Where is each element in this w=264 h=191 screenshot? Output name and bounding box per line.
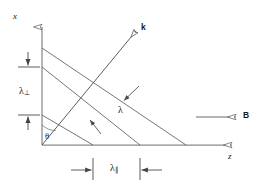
theta-angle-arc [42,125,56,131]
wavefront-line-2 [42,67,140,145]
lambda-pointer-arrow-upper [124,86,139,101]
b-vector-label: B [243,111,249,120]
k-vector-label: k [141,23,146,32]
x-axis-label: x [13,12,17,21]
theta-angle-label: θ [45,132,49,141]
z-axis-label: z [228,152,232,161]
lambda-pointer-group [90,86,139,134]
wavefront-group [42,48,186,145]
wave-vector-k [42,31,136,145]
lambda-label: λ [118,105,123,115]
wavefront-line-3 [42,115,93,145]
k-vector-line [42,31,136,145]
axis-group [42,27,232,145]
lambda-pointer-arrow-lower [90,120,101,134]
lambda-perp-subscript: ⊥ [24,89,30,96]
wave-vector-diagram: x z k B θ λ λ⊥ λ∥ [0,0,264,191]
wavefront-line-1 [42,48,186,145]
lambda-par-label: λ∥ [110,163,119,174]
lambda-perp-label: λ⊥ [19,86,30,97]
lambda-par-subscript: ∥ [115,166,119,173]
diagram-canvas [0,0,264,191]
